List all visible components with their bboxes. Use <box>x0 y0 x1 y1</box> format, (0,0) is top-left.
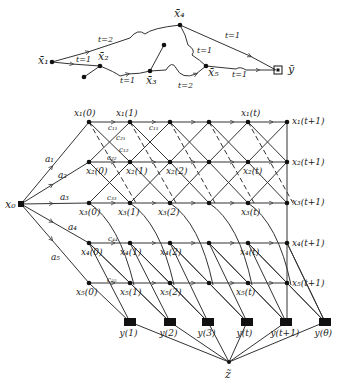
state-node <box>207 281 212 286</box>
state-label: x₄(1) <box>120 247 142 257</box>
state-label: x₂(2) <box>166 166 188 176</box>
source-edge-label: a₁ <box>45 154 54 164</box>
state-node <box>246 281 251 286</box>
source-edge <box>21 204 52 222</box>
source-edge-label: a₄ <box>68 222 77 232</box>
diagram-canvas: x̄₁x̄₂x̄₃x̄₄x̄₅ȳt=2t=1t=1t=2t=1t=1t=1 x₀… <box>0 0 340 383</box>
edge-label: t=2 <box>178 81 193 90</box>
state-label: x₁(0) <box>74 108 96 118</box>
source-edge <box>21 167 52 204</box>
edge-label: t=2 <box>98 35 113 44</box>
state-node <box>285 241 290 246</box>
output-node <box>124 318 136 326</box>
state-node <box>168 281 173 286</box>
coef-label: c₄₄ <box>108 235 118 243</box>
main-graph: x₀z̃x₁(0)x₁(1)x₁(t)x₁(t+1)x₂(0)x₂(1)x₂(2… <box>5 108 333 381</box>
node-label-x2: x̄₂ <box>98 50 109 63</box>
state-label: x₂(1) <box>126 166 148 176</box>
state-node <box>87 160 92 165</box>
state-node <box>128 281 133 286</box>
state-label: x₄(0) <box>81 247 103 257</box>
coef-label: c₁₂ <box>119 146 129 154</box>
source-label: x₀ <box>5 198 16 211</box>
coef-label: c₂₁ <box>116 134 126 142</box>
node-label-x5: x̄₅ <box>208 66 219 79</box>
source-edge <box>21 185 52 204</box>
edge-label: t=1 <box>197 46 212 55</box>
state-node <box>168 120 173 125</box>
output-node <box>241 318 253 326</box>
state-node <box>168 160 173 165</box>
state-label: x₁(1) <box>116 108 138 118</box>
node-label-x4: x̄₄ <box>174 7 185 20</box>
node-label-x3: x̄₃ <box>146 74 157 87</box>
coef-label: c₃₃ <box>107 194 117 202</box>
output-label: y(t+1) <box>269 328 299 338</box>
state-label: x₃(t) <box>241 207 261 217</box>
state-label: x₅(t) <box>236 287 256 297</box>
state-label: x₄(2) <box>160 247 182 257</box>
source-edge <box>52 203 89 204</box>
output-label: y(t) <box>236 328 253 338</box>
coef-label: c₁₁ <box>108 124 118 132</box>
state-node <box>285 201 290 206</box>
top-labels: x̄₁x̄₂x̄₃x̄₄x̄₅ȳt=2t=1t=1t=2t=1t=1t=1 <box>38 7 295 90</box>
output-label: y(θ) <box>314 328 333 338</box>
state-node <box>246 201 251 206</box>
edge-label: t=1 <box>232 70 247 79</box>
source-edge-label: a₂ <box>58 170 67 180</box>
state-node <box>128 120 133 125</box>
edge-label: t=1 <box>120 76 135 85</box>
output-label: y(2) <box>159 328 178 338</box>
state-node <box>128 241 133 246</box>
state-node <box>207 201 212 206</box>
source-edge-label: a₃ <box>60 192 69 202</box>
state-label: x₅(t+1) <box>292 278 325 288</box>
state-node <box>285 120 290 125</box>
state-node <box>207 160 212 165</box>
coef-label: c₁₁ <box>149 124 159 132</box>
state-node <box>285 281 290 286</box>
sink-node <box>227 360 231 364</box>
coef-label: c₅₅ <box>107 276 117 284</box>
source-edge-label: a₅ <box>51 252 60 262</box>
state-label: x₅(2) <box>160 287 182 297</box>
state-node <box>168 241 173 246</box>
output-node <box>280 318 292 326</box>
state-node <box>168 201 173 206</box>
state-label: x₃(1) <box>118 207 140 217</box>
state-label: x₁(t+1) <box>292 116 325 126</box>
output-label: y(1) <box>119 328 138 338</box>
state-node <box>246 120 251 125</box>
source-edge <box>21 204 52 240</box>
output-label: y(3) <box>197 328 216 338</box>
node-label-x1: x̄₁ <box>38 54 49 67</box>
state-label: x₃(t+1) <box>292 197 325 207</box>
state-label: x₂(t) <box>243 166 263 176</box>
state-label: x₅(1) <box>120 287 142 297</box>
state-label: x₂(0) <box>86 166 108 176</box>
state-node <box>87 241 92 246</box>
state-node <box>246 241 251 246</box>
state-node <box>207 120 212 125</box>
state-node <box>246 160 251 165</box>
sink-label: z̃ <box>224 368 231 381</box>
top-graph: x̄₁x̄₂x̄₃x̄₄x̄₅ȳt=2t=1t=1t=2t=1t=1t=1 <box>38 7 295 90</box>
state-node <box>87 281 92 286</box>
state-label: x₂(t+1) <box>292 157 325 167</box>
state-label: x₃(2) <box>158 207 180 217</box>
state-label: x₃(0) <box>79 207 101 217</box>
state-node <box>87 201 92 206</box>
top-nodes <box>50 23 282 80</box>
state-label: x₄(t+1) <box>292 238 325 248</box>
source-node <box>18 201 24 207</box>
state-node <box>128 201 133 206</box>
state-node <box>207 241 212 246</box>
output-node <box>164 318 176 326</box>
output-node <box>319 318 331 326</box>
node-label-y: ȳ <box>287 63 295 76</box>
state-label: x₅(0) <box>76 287 98 297</box>
edge-label: t=1 <box>225 31 240 40</box>
edge-label: t=1 <box>76 55 91 64</box>
state-label: x₁(t) <box>241 108 261 118</box>
